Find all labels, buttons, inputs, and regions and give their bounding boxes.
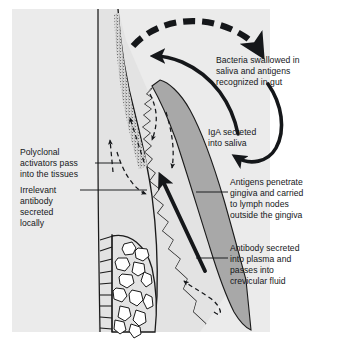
iga-secreted-line-2: into saliva bbox=[208, 138, 247, 148]
figure-container: Bacteria swallowed in saliva and antigen… bbox=[0, 0, 345, 343]
antigens-line-4: outside the gingiva bbox=[230, 210, 303, 220]
antigens-line-3: to lymph nodes bbox=[230, 199, 289, 209]
irrelevant-line-2: antibody bbox=[20, 196, 53, 206]
irrelevant-line-1: Irrelevant bbox=[20, 185, 57, 195]
antibody-line-3: passes into bbox=[230, 265, 274, 275]
bacteria-swallowed-line-2: saliva and antigens bbox=[216, 66, 290, 76]
iga-secreted-line-1: IgA secreted bbox=[208, 127, 256, 137]
irrelevant-line-3: secreted bbox=[20, 207, 53, 217]
bacteria-swallowed-line-3: recognized in gut bbox=[216, 77, 283, 87]
gingiva-immunity-diagram: Bacteria swallowed in saliva and antigen… bbox=[0, 0, 345, 343]
antigens-line-2: gingiva and carried bbox=[230, 188, 304, 198]
antigens-line-1: Antigens penetrate bbox=[230, 177, 303, 187]
irrelevant-line-4: locally bbox=[20, 218, 45, 228]
antibody-line-2: into plasma and bbox=[230, 254, 291, 264]
antibody-line-4: crevicular fluid bbox=[230, 276, 286, 286]
polyclonal-line-2: activators pass bbox=[20, 158, 78, 168]
antibody-line-1: Antibody secreted bbox=[230, 243, 300, 253]
bacteria-swallowed-line-1: Bacteria swallowed in bbox=[216, 55, 300, 65]
polyclonal-line-3: into the tissues bbox=[20, 169, 78, 179]
polyclonal-line-1: Polyclonal bbox=[20, 147, 60, 157]
